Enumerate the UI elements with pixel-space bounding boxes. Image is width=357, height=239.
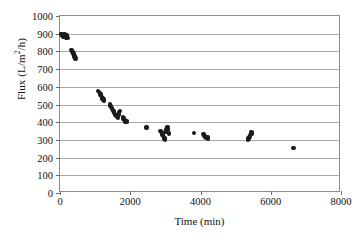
y-axis-tick-label: 500 <box>37 99 53 110</box>
y-axis-tick <box>56 175 60 176</box>
x-axis-tick-label: 8000 <box>331 196 352 207</box>
x-axis-tick-label: 4000 <box>190 196 211 207</box>
y-axis-title-exponent: 2 <box>13 50 22 54</box>
data-point <box>65 36 69 40</box>
x-axis-tick <box>271 191 272 195</box>
gridline <box>60 158 339 159</box>
y-axis-tick-label: 700 <box>37 64 53 75</box>
data-point <box>73 56 77 60</box>
gridline <box>60 122 339 123</box>
y-axis-tick-label: 400 <box>37 117 53 128</box>
x-axis-tick-label: 6000 <box>260 196 281 207</box>
x-axis-tick <box>201 191 202 195</box>
y-axis-tick <box>56 69 60 70</box>
y-axis-title-suffix: /h) <box>15 38 27 51</box>
data-point <box>167 132 171 136</box>
y-axis-tick-label: 100 <box>37 170 53 181</box>
y-axis-tick <box>56 140 60 141</box>
y-axis-tick <box>56 105 60 106</box>
x-axis-title: Time (min) <box>59 215 340 227</box>
gridline <box>60 69 339 70</box>
y-axis-tick-label: 300 <box>37 134 53 145</box>
y-axis-tick-label: 800 <box>37 46 53 57</box>
y-axis-tick <box>56 158 60 159</box>
x-axis-tick <box>341 191 342 195</box>
data-point <box>163 137 167 141</box>
y-axis-tick-label: 1000 <box>32 11 53 22</box>
y-axis-tick <box>56 51 60 52</box>
data-point <box>192 131 196 135</box>
data-point <box>291 146 295 150</box>
data-point <box>250 132 254 136</box>
y-axis-tick <box>56 87 60 88</box>
y-axis-title: Flux (L/m2/h) <box>15 4 27 134</box>
x-axis-tick <box>60 191 61 195</box>
x-axis-tick <box>130 191 131 195</box>
gridline <box>60 175 339 176</box>
y-axis-tick <box>56 16 60 17</box>
y-axis-title-prefix: Flux (L/m <box>15 54 27 100</box>
y-axis-tick <box>56 122 60 123</box>
data-point <box>102 98 106 102</box>
flux-vs-time-scatter-chart: Flux (L/m2/h) 01002003004005006007008009… <box>0 0 357 239</box>
y-axis-tick-label: 600 <box>37 81 53 92</box>
y-axis-tick-label: 0 <box>48 188 53 199</box>
x-axis-tick-label: 0 <box>57 196 62 207</box>
plot-area: 01002003004005006007008009001000 0200040… <box>59 15 340 192</box>
data-point <box>144 125 148 129</box>
gridline <box>60 34 339 35</box>
gridline <box>60 51 339 52</box>
x-axis-tick-label: 2000 <box>120 196 141 207</box>
gridline <box>60 87 339 88</box>
y-axis-tick-label: 900 <box>37 28 53 39</box>
gridline <box>60 140 339 141</box>
y-axis-tick-label: 200 <box>37 152 53 163</box>
gridline <box>60 105 339 106</box>
data-point <box>118 109 122 113</box>
